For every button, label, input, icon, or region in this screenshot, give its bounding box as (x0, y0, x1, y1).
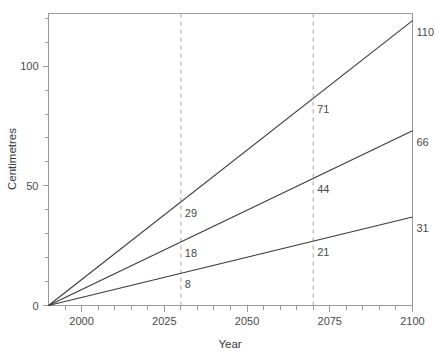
point-label-upper-2030: 29 (185, 207, 197, 219)
point-label-lower-2100: 31 (417, 222, 429, 234)
x-tick-label: 2075 (318, 315, 342, 327)
y-axis-tick-labels: 050100 (20, 60, 38, 311)
annotation-marker-lines (181, 14, 313, 306)
series-line-middle (49, 131, 413, 306)
y-tick-label: 0 (32, 300, 38, 312)
data-point-labels: 297111018446682131 (185, 26, 434, 291)
series-line-lower (49, 217, 413, 306)
point-label-middle-2030: 18 (185, 247, 197, 259)
y-tick-label: 50 (26, 180, 38, 192)
line-chart: 20002025205020752100 050100 297111018446… (0, 0, 435, 358)
point-label-lower-2070: 21 (317, 246, 329, 258)
y-axis-title: Centimetres (6, 128, 18, 190)
x-axis-tick-labels: 20002025205020752100 (69, 315, 424, 327)
point-label-upper-2070: 71 (317, 103, 329, 115)
point-label-lower-2030: 8 (185, 278, 191, 290)
y-tick-label: 100 (20, 60, 38, 72)
x-tick-label: 2050 (235, 315, 259, 327)
point-label-middle-2070: 44 (317, 183, 329, 195)
y-axis-ticks (43, 18, 49, 305)
x-tick-label: 2025 (152, 315, 176, 327)
point-label-upper-2100: 110 (417, 26, 435, 38)
x-tick-label: 2000 (69, 315, 93, 327)
x-axis-title: Year (218, 338, 241, 350)
point-label-middle-2100: 66 (417, 136, 429, 148)
x-tick-label: 2100 (400, 315, 424, 327)
chart-container: 20002025205020752100 050100 297111018446… (0, 0, 435, 358)
series-line-upper (49, 21, 413, 306)
series-lines (49, 21, 413, 306)
x-axis-ticks (65, 306, 412, 312)
